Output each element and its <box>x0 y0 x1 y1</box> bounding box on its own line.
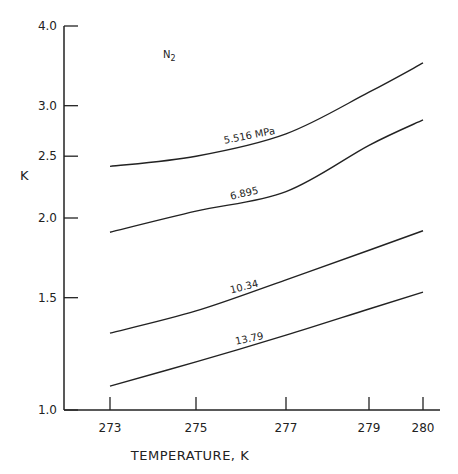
axes: 1.01.52.02.53.04.0273275277279280TEMPERA… <box>20 19 440 463</box>
curve-10-34-MPa <box>110 231 423 333</box>
y-tick-label: 1.5 <box>38 291 57 305</box>
x-tick-label: 273 <box>99 421 122 435</box>
curve-5-516-MPa <box>110 63 423 166</box>
x-tick-label: 279 <box>358 421 381 435</box>
curve-label: 13.79 <box>234 330 264 347</box>
y-tick-label: 4.0 <box>38 19 57 33</box>
x-tick-label: 277 <box>275 421 298 435</box>
curve-13-79-MPa <box>110 292 423 386</box>
y-tick-label: 3.0 <box>38 99 57 113</box>
curves <box>110 63 423 386</box>
curve-label: 10.34 <box>229 278 259 296</box>
x-tick-label: 275 <box>185 421 208 435</box>
y-tick-label: 1.0 <box>38 403 57 417</box>
curve-label: 5.516 MPa <box>223 125 276 146</box>
curve-label: 6.895 <box>229 185 259 202</box>
x-axis-title: TEMPERATURE, K <box>130 448 249 463</box>
gas-annotation: N2 <box>163 49 176 63</box>
chart: 1.01.52.02.53.04.0273275277279280TEMPERA… <box>0 0 458 474</box>
x-tick-label: 280 <box>412 421 435 435</box>
y-tick-label: 2.0 <box>38 211 57 225</box>
y-tick-label: 2.5 <box>38 149 57 163</box>
labels: 5.516 MPa6.89510.3413.79 <box>223 125 276 347</box>
y-axis-title: K <box>20 168 29 183</box>
